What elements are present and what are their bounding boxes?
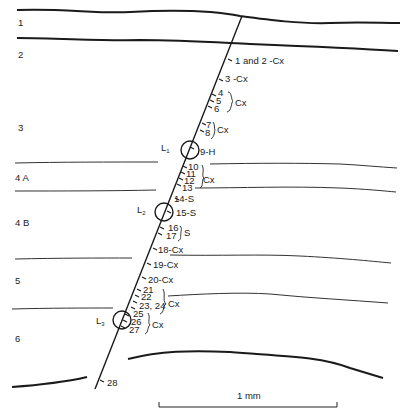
recording-15: 15-S [176,207,196,218]
recording-19: 19-Cx [153,259,179,270]
recording-18: 18-Cx [158,244,184,255]
layer-4a-4b-boundary-right [195,187,396,192]
recording-3: 3 -Cx [225,73,248,84]
recording-16-17-class: S [184,227,190,238]
recording-1-2: 1 and 2 -Cx [235,55,284,66]
recording-13: 13 [182,182,193,193]
electrode-track [95,16,242,389]
recording-28: 28 [107,377,118,388]
layer-label-6: 6 [15,333,20,344]
layer-3-4a-boundary-right [210,163,397,168]
lesion-label-l1: L1 [161,142,170,154]
layer-3-4a-boundary-left [15,162,158,163]
pia-boundary [17,10,400,24]
lesion-label-l3: L3 [96,315,105,327]
white-matter-boundary-right [128,351,383,378]
layer-label-2: 2 [18,49,23,60]
lesion-label-l2: L2 [137,204,146,216]
layer-4b-5-boundary-right [170,255,391,263]
recording-27: 27 [129,324,140,335]
recording-9: 9-H [200,146,215,157]
lesion-circle-l1 [181,141,199,159]
recording-14: 14-S [174,193,194,204]
layer-label-3: 3 [18,122,23,133]
layer-5-6-boundary-left [12,308,113,309]
layer-label-1: 1 [18,17,23,28]
layer-1-2-boundary [17,38,398,51]
layer-label-5: 5 [15,275,20,286]
recording-21-24-class: Cx [168,298,180,309]
recording-6: 6 [214,103,219,114]
scale-bar [159,402,337,407]
scale-bar-label: 1 mm [237,390,261,401]
layer-5-6-boundary-right [168,293,388,303]
recording-10-13-class: Cx [203,174,215,185]
recording-17: 17 [166,230,177,241]
layer-4a-4b-boundary-left [15,190,156,191]
layer-label-4b: 4 B [15,217,29,228]
layer-label-4a: 4 A [15,172,29,183]
recording-4-6-class: Cx [235,97,247,108]
recording-25-27-class: Cx [152,319,164,330]
white-matter-boundary-left [12,377,87,387]
recording-7-8-class: Cx [217,124,229,135]
recording-8: 8 [205,127,210,138]
electrode-track-diagram: 1 2 3 4 A 4 B 5 6 L1 L2 L3 1 and 2 -Cx 3… [0,0,408,418]
layer-4b-5-boundary-left [15,258,132,259]
